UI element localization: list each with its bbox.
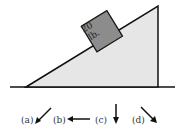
arrow-left-icon [67, 116, 90, 122]
arrow-down-icon [113, 104, 119, 124]
option-c-label: (c) [95, 115, 107, 125]
option-a-label: (a) [21, 115, 33, 125]
inclined-plane [26, 6, 158, 87]
option-d-label: (d) [132, 115, 145, 125]
incline-diagram: 20 lb. [0, 0, 181, 134]
option-b-label: (b) [53, 115, 66, 125]
arrow-down-left-icon [35, 108, 51, 124]
